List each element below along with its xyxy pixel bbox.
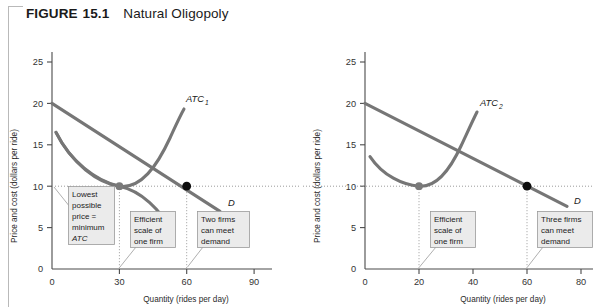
- x-axis-title-left: Quantity (rides per day): [143, 295, 229, 304]
- callout-three-firms-line-2: demand: [541, 237, 570, 246]
- callout-leader-two-firms: [188, 247, 204, 267]
- y-axis-title-left: Price and cost (dollars per ride): [10, 129, 19, 243]
- demand-curve-right: [365, 103, 567, 206]
- callout-leader-efficient-scale-right: [420, 247, 437, 267]
- x-axis-ticks-right: 0 20 40 60 80: [362, 269, 586, 287]
- atc2-curve: [370, 112, 477, 186]
- demand-label-right: D: [574, 195, 581, 206]
- atc2-label: ATC: [479, 97, 498, 108]
- y-axis-title-right: Price and cost (dollars per ride): [313, 129, 322, 243]
- y-tick-label-20-right: 20: [346, 99, 356, 109]
- callout-efficient-scale-left-line-0: Efficient: [134, 215, 163, 224]
- callout-efficient-scale-left-line-2: one firm: [134, 237, 163, 246]
- x-tick-label-80-right: 80: [576, 277, 586, 287]
- x-tick-label-0: 0: [49, 277, 54, 287]
- y-tick-label-5-right: 5: [351, 223, 356, 233]
- callout-two-firms: Two firms can meet demand: [198, 212, 250, 248]
- x-tick-label-30: 30: [114, 277, 124, 287]
- y-axis-ticks-right: 0 5 10 15 20 25: [346, 57, 365, 274]
- demand-label-left: D: [228, 197, 235, 208]
- figure-name: Natural Oligopoly: [123, 6, 228, 21]
- x-tick-label-60: 60: [182, 277, 192, 287]
- callout-two-firms-line-2: demand: [201, 237, 230, 246]
- y-tick-label-25: 25: [33, 57, 43, 67]
- minimum-atc-marker-right: [415, 182, 423, 190]
- atc1-label-subscript: 1: [205, 99, 209, 106]
- callout-efficient-scale-left: Efficient scale of one firm: [131, 212, 176, 248]
- demand-intersection-marker-right: [523, 182, 532, 191]
- callout-leader-efficient-scale-left: [120, 247, 136, 267]
- callout-efficient-scale-right-line-2: one firm: [434, 237, 463, 246]
- x-tick-label-20-right: 20: [414, 277, 424, 287]
- x-tick-label-0-right: 0: [362, 277, 367, 287]
- x-tick-label-60-right: 60: [522, 277, 532, 287]
- callout-lowest-price-line-2: price =: [72, 212, 97, 221]
- y-tick-label-25-right: 25: [346, 57, 356, 67]
- page-title: FIGURE15.1Natural Oligopoly: [26, 6, 229, 21]
- callout-efficient-scale-right-line-0: Efficient: [434, 215, 463, 224]
- y-tick-label-15: 15: [33, 140, 43, 150]
- callout-three-firms-line-1: can meet: [541, 226, 575, 235]
- callout-lowest-price-line-1: possible: [72, 201, 102, 210]
- y-tick-label-15-right: 15: [346, 140, 356, 150]
- callout-efficient-scale-right: Efficient scale of one firm: [431, 212, 476, 248]
- x-axis-ticks-left: 0 30 60 90: [49, 269, 259, 287]
- x-tick-label-40-right: 40: [468, 277, 478, 287]
- y-tick-label-10: 10: [33, 182, 43, 192]
- y-tick-label-0: 0: [38, 264, 43, 274]
- figure-number: 15.1: [83, 6, 110, 21]
- chart-panel-left: Price and cost (dollars per ride) 0 5 10…: [0, 26, 300, 307]
- callout-three-firms: Three firms can meet demand: [538, 212, 593, 248]
- callout-efficient-scale-right-line-1: scale of: [434, 226, 462, 235]
- y-tick-label-20: 20: [33, 99, 43, 109]
- callout-lowest-price: Lowest possible price = minimum ATC: [69, 187, 115, 245]
- callout-lowest-price-line-0: Lowest: [72, 190, 98, 199]
- chart-left-svg: Price and cost (dollars per ride) 0 5 10…: [0, 26, 300, 307]
- callout-efficient-scale-left-line-1: scale of: [134, 226, 162, 235]
- chart-right-svg: Price and cost (dollars per ride) 0 5 10…: [303, 26, 603, 307]
- callout-three-firms-line-0: Three firms: [541, 215, 581, 224]
- y-axis-ticks-left: 0 5 10 15 20 25: [33, 57, 52, 274]
- atc2-label-subscript: 2: [498, 103, 503, 110]
- atc1-label: ATC: [185, 93, 204, 104]
- chart-panel-right: Price and cost (dollars per ride) 0 5 10…: [303, 26, 603, 307]
- y-tick-label-0-right: 0: [351, 264, 356, 274]
- callout-leader-three-firms: [528, 247, 544, 267]
- figure-label: FIGURE: [26, 6, 78, 21]
- callout-lowest-price-line-4: ATC: [71, 234, 88, 243]
- y-tick-label-5: 5: [38, 223, 43, 233]
- minimum-atc-marker-left: [116, 182, 124, 190]
- callout-two-firms-line-0: Two firms: [201, 215, 235, 224]
- demand-intersection-marker-left: [182, 182, 191, 191]
- callout-lowest-price-line-3: minimum: [72, 223, 105, 232]
- x-axis-title-right: Quantity (rides per day): [460, 295, 546, 304]
- callout-two-firms-line-1: can meet: [201, 226, 235, 235]
- x-tick-label-90: 90: [249, 277, 259, 287]
